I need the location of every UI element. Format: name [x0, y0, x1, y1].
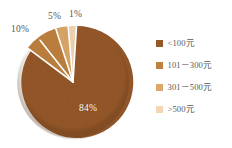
legend-swatch-icon-under-100 — [156, 40, 163, 47]
legend-item-301-500[interactable]: 301－500元 — [156, 82, 230, 93]
pie-chart-plot-area: 10% 5% 1% 84% — [0, 0, 150, 148]
legend-item-101-300[interactable]: 101－300元 — [156, 60, 230, 71]
chart-legend: <100元 101－300元 301－500元 >500元 — [156, 38, 230, 115]
legend-label-301-500: 301－500元 — [168, 83, 213, 92]
pie-label-5-percent: 5% — [48, 12, 61, 22]
pie-label-10-percent: 10% — [11, 25, 29, 35]
legend-label-101-300: 101－300元 — [168, 61, 213, 70]
legend-swatch-icon-101-300 — [156, 62, 163, 69]
pie-label-1-percent: 1% — [69, 10, 82, 20]
pie-rim-shading — [17, 26, 129, 138]
legend-swatch-icon-301-500 — [156, 84, 163, 91]
legend-item-under-100[interactable]: <100元 — [156, 38, 230, 49]
legend-label-over-500: >500元 — [168, 105, 195, 114]
pie-chart-svg — [0, 0, 150, 148]
pie-label-84-percent: 84% — [79, 104, 97, 114]
legend-item-over-500[interactable]: >500元 — [156, 104, 230, 115]
pie-chart-figure: 10% 5% 1% 84% <100元 101－300元 301－500元 >5… — [0, 0, 232, 148]
legend-swatch-icon-over-500 — [156, 106, 163, 113]
legend-label-under-100: <100元 — [168, 39, 195, 48]
